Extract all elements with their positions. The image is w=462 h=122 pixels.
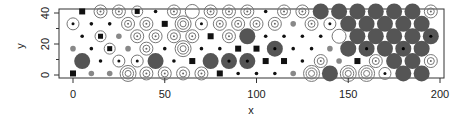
data-point-r2 (131, 30, 144, 43)
data-point-r3 (359, 65, 375, 81)
data-point-r1 (185, 4, 199, 18)
data-point-d (90, 47, 94, 51)
y-axis-title: y (14, 43, 26, 49)
y-axis: 02040 (39, 7, 59, 78)
x-tick-label: 200 (431, 88, 449, 100)
data-point-f (340, 41, 356, 57)
data-point-sr (104, 43, 115, 54)
x-tick-label: 0 (70, 88, 76, 100)
data-point-r2 (140, 17, 153, 30)
data-point-r2 (167, 30, 180, 43)
data-point-r2 (278, 5, 291, 18)
data-point-g (290, 21, 296, 27)
x-axis-title: x (248, 104, 254, 116)
data-point-rd (113, 55, 125, 67)
data-point-r2 (149, 30, 162, 43)
data-point-d (154, 10, 158, 14)
data-point-r2 (250, 17, 263, 30)
data-point-s (189, 58, 195, 64)
data-point-r2 (94, 5, 107, 18)
data-point-d (301, 59, 305, 63)
data-point-r2 (222, 30, 235, 43)
data-point-d (90, 22, 94, 26)
data-point-r2 (186, 30, 199, 43)
data-point-d (291, 47, 295, 51)
data-point-s (79, 8, 85, 14)
data-point-s (354, 58, 360, 64)
data-point-s (254, 46, 260, 52)
y-tick-label: 40 (39, 7, 51, 19)
data-point-f (414, 65, 430, 81)
data-point-r2 (296, 5, 309, 18)
data-point-d (163, 47, 167, 51)
data-point-g (89, 71, 95, 77)
data-point-sr (95, 31, 106, 42)
data-point-s (162, 21, 168, 27)
x-tick-label: 150 (339, 88, 357, 100)
data-point-d (264, 34, 268, 38)
data-point-s (235, 46, 241, 52)
data-point-d (172, 59, 176, 63)
data-point-r2 (241, 5, 254, 18)
data-point-d (310, 47, 314, 51)
data-point-r1 (332, 29, 346, 43)
data-point-fd (267, 41, 283, 57)
data-point-r2 (204, 5, 217, 18)
x-tick-label: 100 (247, 88, 265, 100)
data-point-r2 (314, 55, 327, 68)
data-point-r3 (304, 65, 320, 81)
data-point-r2 (232, 17, 245, 30)
data-point-s (70, 70, 76, 76)
data-point-s (208, 33, 214, 39)
data-point-s (217, 70, 223, 76)
data-point-g (125, 46, 131, 52)
y-tick-label: 20 (39, 38, 51, 50)
data-point-r3 (175, 16, 191, 32)
data-point-r2 (369, 55, 382, 68)
data-point-r2 (424, 5, 437, 18)
data-point-d (264, 10, 268, 14)
data-point-sr (132, 6, 143, 17)
data-point-d (273, 72, 277, 76)
data-point-f (203, 53, 219, 69)
data-point-g (327, 46, 333, 52)
data-point-r2 (424, 55, 437, 68)
data-point-s (263, 58, 269, 64)
data-point-r3 (120, 65, 136, 81)
data-point-r2 (112, 5, 125, 18)
data-point-d (218, 47, 222, 51)
data-point-r3 (175, 41, 191, 57)
data-point-g (116, 33, 122, 39)
data-point-r2 (222, 5, 235, 18)
data-point-r2 (122, 17, 135, 30)
data-point-d (319, 34, 323, 38)
data-point-f (239, 28, 255, 44)
data-point-rd (195, 18, 207, 30)
data-point-f (395, 65, 411, 81)
data-point-r2 (213, 17, 226, 30)
data-point-r2 (167, 5, 180, 18)
data-point-f (313, 3, 329, 19)
data-point-f (322, 65, 338, 81)
data-point-r2 (305, 17, 318, 30)
data-point-g (336, 58, 342, 64)
scatter-chart: 050100150200 02040 x y (0, 0, 462, 122)
data-point-fd (239, 53, 255, 69)
data-point-g (70, 46, 76, 52)
data-point-fd (221, 53, 237, 69)
data-point-rd (131, 55, 143, 67)
x-tick-label: 50 (159, 88, 171, 100)
data-point-rd (67, 18, 79, 30)
data-point-fd (359, 41, 375, 57)
data-point-d (200, 47, 204, 51)
data-point-g (107, 71, 113, 77)
data-point-d (282, 34, 286, 38)
data-point-s (281, 58, 287, 64)
data-point-rd (324, 18, 336, 30)
y-tick-label: 0 (39, 72, 51, 78)
data-point-d (80, 34, 84, 38)
data-point-r2 (268, 17, 281, 30)
data-point-d (236, 72, 240, 76)
data-point-f (74, 53, 90, 69)
data-point-d (99, 59, 103, 63)
